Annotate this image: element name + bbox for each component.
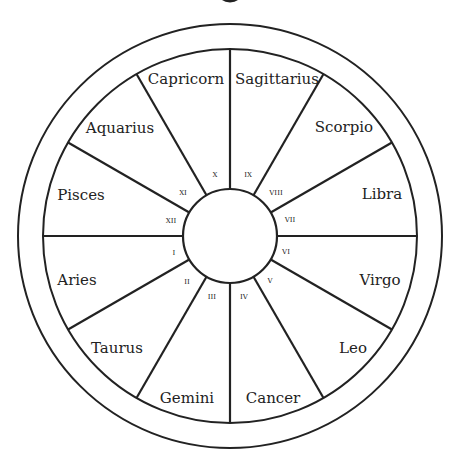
house-numeral-10: X [213, 171, 218, 179]
sign-label-libra: Libra [362, 185, 403, 203]
house-numeral-2: II [184, 278, 190, 286]
sign-label-sagittarius: Sagittarius [235, 70, 319, 88]
house-numeral-12: XII [166, 217, 177, 225]
spoke [68, 260, 189, 330]
house-numeral-5: V [266, 277, 273, 285]
house-numeral-9: IX [244, 171, 252, 179]
center-hub [183, 189, 277, 283]
sign-label-scorpio: Scorpio [315, 118, 373, 136]
sign-label-pisces: Pisces [57, 186, 105, 204]
house-numeral-7: VII [284, 216, 296, 224]
title-fragment [222, 0, 238, 2]
house-numeral-3: III [208, 293, 217, 301]
spoke [254, 74, 324, 195]
sign-label-leo: Leo [339, 339, 367, 357]
sign-label-capricorn: Capricorn [148, 70, 225, 88]
house-numeral-11: XI [179, 189, 187, 197]
zodiac-wheel: Capricorn Sagittarius Scorpio Libra Virg… [0, 0, 457, 468]
house-numeral-1: I [173, 249, 176, 257]
sign-label-aquarius: Aquarius [85, 119, 154, 137]
sign-label-virgo: Virgo [358, 271, 400, 289]
house-numeral-4: IV [240, 293, 249, 301]
sign-label-gemini: Gemini [160, 389, 215, 407]
sign-label-taurus: Taurus [91, 339, 143, 357]
house-numeral-6: VI [281, 248, 290, 256]
sign-label-cancer: Cancer [246, 389, 301, 407]
spoke [254, 277, 324, 398]
spoke [137, 277, 207, 398]
house-numeral-8: VIII [268, 189, 283, 197]
spoke [271, 260, 392, 330]
sign-label-aries: Aries [56, 271, 96, 289]
